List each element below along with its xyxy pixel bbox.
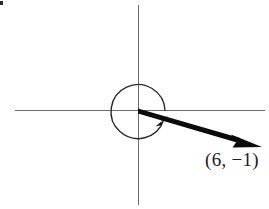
vector-diagram-figure: (6, −1) — [0, 0, 269, 209]
vector-point-label: (6, −1) — [205, 149, 259, 171]
vector-shaft — [138, 109, 240, 143]
diagram-canvas — [0, 0, 269, 209]
